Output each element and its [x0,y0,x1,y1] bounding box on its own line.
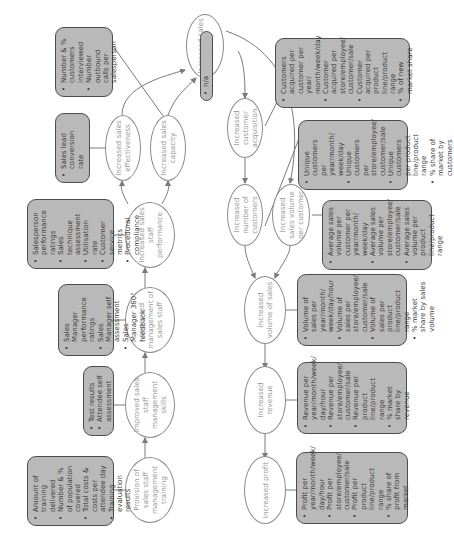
measures-performance: Salesperson performance ratings Sales te… [27,199,114,269]
node-capacity: Increased sales capacity [150,115,186,181]
measures-profit: Profit per year/month/week/ day/hour Pro… [296,452,408,524]
measure-item: Profit per product line/product range [351,459,385,518]
measure-item: Sales Manager performance ratings [63,291,97,350]
measures-volume-per-customer: Average sales volume per customer per ye… [322,200,432,270]
measure-item: Profit per year/month/week/ day/hour [301,459,326,518]
measure-item: Profit per store/employee/ customer/sale [326,459,351,518]
measure-item: Amount of training delivered [32,463,57,520]
measures-provision: Amount of training delivered Number & % … [27,456,114,526]
node-skills: Improved sales staff management skills [125,372,175,438]
node-revenue-label: Increased revenue [256,370,274,430]
node-skills-label: Improved sales staff management skills [132,376,168,434]
node-revenue: Increased revenue [244,366,286,434]
measure-item: Sales Manager 360° feedback [122,291,147,350]
measure-item: Salesperson performance ratings [32,206,57,263]
node-acquisition-label: Increased customer acquisition [232,102,259,154]
measure-item: Procedural compliance [124,206,141,263]
node-number-of-customers: Increased number of customers [227,184,263,246]
measure-item: Average sales volume per store/employee/… [369,207,403,264]
node-profit: Increased profit [244,456,286,524]
measure-item: Average sales volume per customer per ye… [327,207,369,264]
measure-item: Utilisation rate [82,206,99,263]
measure-item: Revenue per product line/product range [352,369,386,428]
measure-item: Number outbound calls per salesperson [85,34,119,91]
node-volume-per-customer: Increased sales volume per customer [272,184,310,246]
measures-impact: n/a [200,31,213,101]
measure-item: % market share by revenue [386,369,411,428]
node-volume-of-sales: Increased volume of sales [244,276,286,344]
node-number-of-customers-label: Increased number of customers [232,188,259,242]
measure-item: Unique customers per store/employee/ cus… [345,127,387,184]
measures-acquisition: Customers acquired per customer per year… [275,38,410,108]
measures-skills: Test results Attendee self assessment [83,366,114,436]
measure-item: Revenue per year/month/week/ day/hour [302,369,327,428]
measure-item: Sales Manager self assessment [97,291,122,350]
measures-revenue: Revenue per year/month/week/ day/hour Re… [297,362,407,434]
measure-item: % share of market by customers [429,127,454,184]
measure-item: Average sales volume per product line/pr… [403,207,445,264]
measure-item: Customer acquired per product line/produ… [356,45,398,102]
measure-item: Unique customers per year/month/ week/da… [303,127,345,184]
measure-item: Volume of sales per store/employee/ cust… [336,281,370,340]
node-volume-of-sales-label: Increased volume of sales [256,280,274,340]
node-provision-label: Provision of sales staff management trai… [132,461,168,519]
measure-item: Customer service metrics [99,206,124,263]
measures-management: Sales Manager performance ratings Sales … [58,284,114,356]
node-capacity-label: Increased sales capacity [159,119,177,177]
measure-item: Training evaluation results [108,463,133,520]
measures-number-of-customers: Unique customers per year/month/ week/da… [298,120,408,190]
measure-item: Sales lead conversion rate [60,120,85,177]
node-effectiveness-label: Increased sales effectiveness [114,119,132,177]
measure-item: Total costs & costs per attendee day [82,463,107,520]
measure-item: Number & % of population covered [57,463,82,520]
measure-item: Attendee self assessment [96,373,113,430]
node-profit-label: Increased profit [261,462,270,518]
measure-item: Test results [88,373,96,430]
measures-capacity: Number & % customers interviewed Number … [55,27,113,97]
measure-item: Unique customers per product line/produc… [387,127,429,184]
measure-item: % market share by sales volume [411,281,436,340]
measure-item: Volume of sales per year/month/ week/day… [302,281,336,340]
measure-item: Volume of sales per product line/product… [369,281,411,340]
measure-item: Number & % customers interviewed [60,34,85,91]
node-acquisition: Increased customer acquisition [227,98,263,158]
measure-item: n/a [202,37,210,95]
measure-item: % of new market share [397,45,414,102]
measure-item: Revenue per store/employee/ customer/sal… [327,369,352,428]
measure-item: Sales technique assessment [57,206,82,263]
measures-volume-of-sales: Volume of sales per year/month/ week/day… [297,274,407,346]
measure-item: Customers acquired per customer per year… [280,45,322,102]
measures-effectiveness: Sales lead conversion rate [55,113,90,183]
measure-item: Customer acquired per store/employee/ cu… [322,45,356,102]
node-effectiveness: Increased sales effectiveness [105,115,141,181]
node-volume-per-customer-label: Increased sales volume per customer [278,188,305,242]
measure-item: % share of profit from market [385,459,410,518]
